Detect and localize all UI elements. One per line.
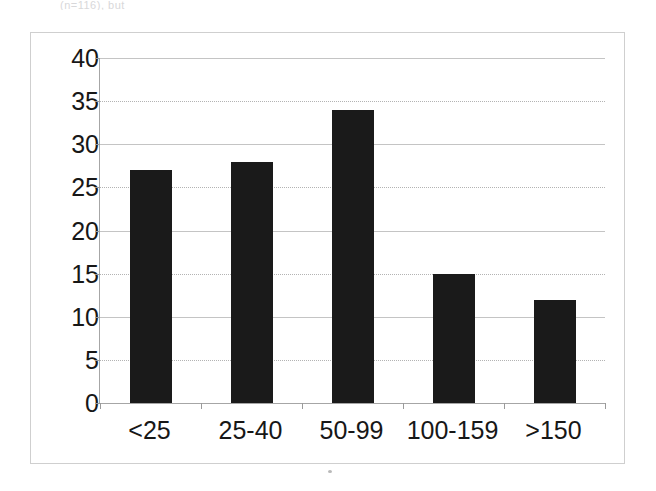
bar[interactable] bbox=[332, 110, 374, 403]
y-axis-tick-mark bbox=[95, 58, 100, 59]
y-axis-tick-mark bbox=[95, 187, 100, 188]
y-axis-tick-label: 5 bbox=[39, 347, 99, 372]
x-axis-tick-mark bbox=[201, 403, 202, 409]
y-axis-tick-mark bbox=[95, 274, 100, 275]
x-axis-tick-mark bbox=[605, 403, 606, 409]
x-axis-tick-mark bbox=[100, 403, 101, 409]
x-axis-tick-label: 25-40 bbox=[219, 413, 283, 447]
y-axis-tick-mark bbox=[95, 360, 100, 361]
bar[interactable] bbox=[433, 274, 475, 403]
y-axis-tick-label: 10 bbox=[39, 304, 99, 329]
y-axis-labels: 0510152025303540 bbox=[39, 58, 99, 403]
y-axis-tick-label: 15 bbox=[39, 261, 99, 286]
x-axis-tick-label: >150 bbox=[525, 413, 581, 447]
x-axis-tick-mark bbox=[302, 403, 303, 409]
bar[interactable] bbox=[130, 170, 172, 403]
y-axis-tick-label: 20 bbox=[39, 218, 99, 243]
y-axis-tick-mark bbox=[95, 101, 100, 102]
plot-area bbox=[99, 58, 605, 404]
x-axis-labels: <2525-4050-99100-159>150 bbox=[99, 413, 604, 453]
chart-frame: 0510152025303540 <2525-4050-99100-159>15… bbox=[30, 32, 625, 464]
x-axis-tick-mark bbox=[504, 403, 505, 409]
y-axis-tick-label: 35 bbox=[39, 89, 99, 114]
scan-artifact-speck bbox=[328, 470, 332, 473]
x-axis-tick-label: 50-99 bbox=[320, 413, 384, 447]
y-axis-tick-mark bbox=[95, 144, 100, 145]
x-axis-tick-mark bbox=[403, 403, 404, 409]
gridline bbox=[100, 58, 605, 59]
y-axis-tick-label: 25 bbox=[39, 175, 99, 200]
scanned-text-remnant: (n=116), but bbox=[60, 0, 280, 10]
y-axis-tick-mark bbox=[95, 317, 100, 318]
bar[interactable] bbox=[534, 300, 576, 404]
x-axis-tick-label: <25 bbox=[128, 413, 170, 447]
y-axis-tick-mark bbox=[95, 231, 100, 232]
y-axis-tick-label: 0 bbox=[39, 391, 99, 416]
bar[interactable] bbox=[231, 162, 273, 404]
gridline bbox=[100, 101, 605, 102]
y-axis-tick-label: 30 bbox=[39, 132, 99, 157]
y-axis-tick-label: 40 bbox=[39, 46, 99, 71]
x-axis-tick-label: 100-159 bbox=[407, 413, 499, 447]
